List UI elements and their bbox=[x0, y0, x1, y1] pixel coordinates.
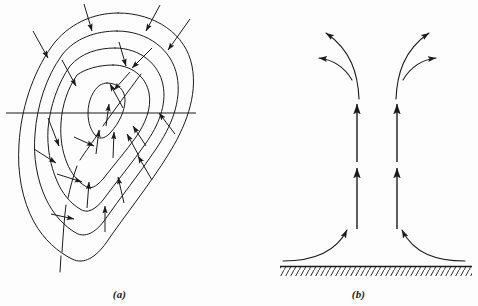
updraft-group bbox=[357, 104, 397, 229]
flow-vector bbox=[62, 60, 76, 86]
flow-vector bbox=[119, 42, 126, 66]
flow-vector bbox=[113, 132, 114, 158]
inflow-arrow bbox=[283, 230, 347, 261]
flow-vector bbox=[114, 72, 130, 90]
flow-vector bbox=[127, 134, 139, 156]
flow-vector bbox=[133, 126, 146, 146]
flow-vector bbox=[106, 104, 109, 126]
flow-vector bbox=[74, 137, 94, 146]
inflow-arrow bbox=[402, 230, 465, 261]
inflow-group bbox=[283, 230, 465, 261]
outflow-arrow bbox=[403, 58, 436, 80]
flow-vector-group bbox=[33, 4, 190, 232]
flow-vector bbox=[34, 149, 56, 163]
flow-vector bbox=[96, 130, 99, 154]
contour-level-1 bbox=[88, 83, 125, 138]
ground-surface bbox=[280, 267, 472, 277]
flow-vector bbox=[51, 214, 74, 219]
panel-a-diagram bbox=[0, 0, 239, 306]
flow-vector bbox=[132, 48, 152, 68]
panel-b: (b) bbox=[239, 0, 478, 306]
figure-root: (a) bbox=[0, 0, 478, 306]
contour-group bbox=[19, 13, 194, 261]
panel-b-caption: (b) bbox=[239, 288, 478, 300]
contour-level-4 bbox=[34, 31, 178, 235]
flow-vector bbox=[33, 31, 48, 58]
panel-a: (a) bbox=[0, 0, 239, 306]
outflow-arrow bbox=[396, 33, 429, 99]
outflow-arrow bbox=[326, 33, 359, 99]
flow-vector bbox=[48, 118, 59, 146]
panel-b-diagram bbox=[239, 0, 478, 306]
flow-vector bbox=[118, 177, 124, 203]
flow-vector bbox=[138, 156, 152, 180]
panel-a-caption: (a) bbox=[0, 288, 239, 300]
outflow-arrow bbox=[319, 58, 352, 80]
flow-vector bbox=[87, 182, 89, 208]
flow-vector bbox=[57, 174, 82, 182]
outflow-group bbox=[319, 33, 436, 99]
flow-vector bbox=[168, 19, 190, 50]
ground-hatch-band bbox=[280, 267, 472, 276]
